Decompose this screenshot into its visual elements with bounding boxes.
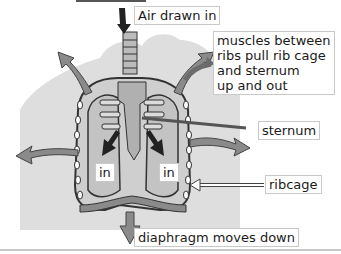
air-in-arrow [117, 8, 131, 34]
label-muscles-line-1: muscles between [217, 33, 331, 48]
label-diaphragm: diaphragm moves down [134, 228, 299, 247]
label-sternum: sternum [258, 121, 320, 140]
label-air-drawn-in: Air drawn in [134, 6, 220, 25]
trachea [123, 32, 137, 74]
top-rule [76, 0, 146, 2]
label-muscles: muscles between ribs pull rib cage and s… [213, 31, 335, 95]
bottom-rule [0, 249, 341, 251]
label-in-right: in [159, 163, 179, 182]
label-ribcage: ribcage [265, 175, 322, 194]
breathing-diagram: Air drawn in muscles between ribs pull r… [0, 0, 341, 254]
label-muscles-line-2: ribs pull rib cage [217, 48, 331, 63]
label-muscles-line-4: up and out [217, 78, 331, 93]
label-in-left: in [95, 163, 115, 182]
label-muscles-line-3: and sternum [217, 63, 331, 78]
